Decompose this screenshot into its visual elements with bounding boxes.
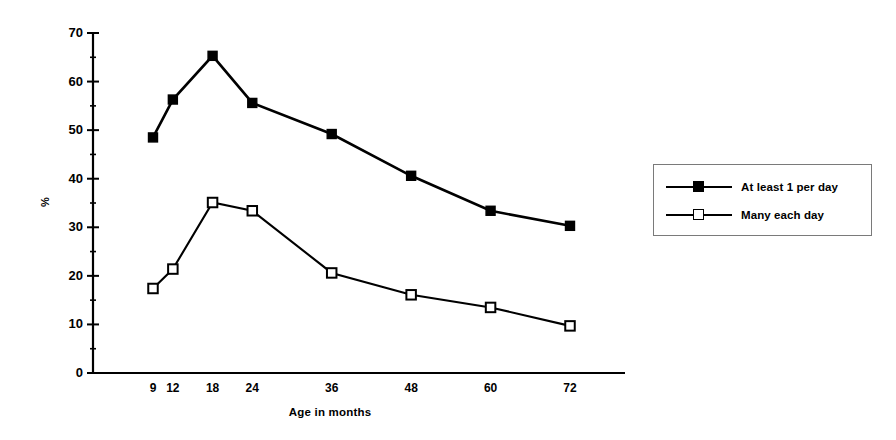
data-point-marker bbox=[565, 321, 575, 331]
data-point-marker bbox=[406, 290, 416, 300]
filled-square-icon bbox=[693, 181, 704, 192]
data-point-marker bbox=[168, 95, 177, 104]
data-point-marker bbox=[327, 130, 336, 139]
legend-item-many-each-day: Many each day bbox=[666, 206, 824, 224]
x-tick-label: 12 bbox=[158, 382, 188, 394]
legend-item-at-least-1-per-day: At least 1 per day bbox=[666, 178, 838, 196]
y-tick-label: 0 bbox=[49, 366, 83, 379]
y-tick-label: 40 bbox=[49, 172, 83, 185]
y-tick-label: 10 bbox=[49, 317, 83, 330]
y-tick-label: 50 bbox=[49, 123, 83, 136]
data-point-marker bbox=[486, 303, 496, 313]
data-point-marker bbox=[148, 284, 158, 294]
data-point-marker bbox=[208, 51, 217, 60]
legend-label: At least 1 per day bbox=[741, 181, 838, 193]
y-axis-title: % bbox=[39, 191, 51, 213]
legend-key-open-square-icon bbox=[666, 208, 732, 222]
y-tick-label: 70 bbox=[49, 26, 83, 39]
legend-label: Many each day bbox=[741, 209, 824, 221]
data-point-marker bbox=[407, 171, 416, 180]
chart-legend: At least 1 per day Many each day bbox=[653, 164, 872, 236]
data-point-marker bbox=[149, 133, 158, 142]
y-tick-label: 60 bbox=[49, 75, 83, 88]
line-chart-svg bbox=[0, 0, 640, 440]
data-point-marker bbox=[566, 221, 575, 230]
data-point-marker bbox=[248, 98, 257, 107]
plot-area: % 010203040506070 912182436486072 Age in… bbox=[0, 0, 640, 440]
x-tick-label: 18 bbox=[198, 382, 228, 394]
chart-series-layer bbox=[148, 51, 575, 330]
x-tick-label: 48 bbox=[396, 382, 426, 394]
x-tick-label: 24 bbox=[237, 382, 267, 394]
x-tick-label: 60 bbox=[476, 382, 506, 394]
open-square-icon bbox=[693, 209, 704, 220]
chart-figure: % 010203040506070 912182436486072 Age in… bbox=[0, 0, 896, 440]
data-point-marker bbox=[248, 206, 257, 216]
y-tick-label: 20 bbox=[49, 269, 83, 282]
x-axis-title: Age in months bbox=[230, 406, 430, 418]
data-point-marker bbox=[486, 206, 495, 215]
chart-axes bbox=[87, 33, 625, 373]
data-point-marker bbox=[208, 198, 218, 208]
legend-key-filled-square-icon bbox=[666, 180, 732, 194]
data-point-marker bbox=[327, 268, 337, 278]
data-point-marker bbox=[168, 264, 178, 274]
y-tick-label: 30 bbox=[49, 220, 83, 233]
series-many-each-day bbox=[148, 198, 575, 331]
x-tick-label: 36 bbox=[317, 382, 347, 394]
x-tick-label: 72 bbox=[555, 382, 585, 394]
